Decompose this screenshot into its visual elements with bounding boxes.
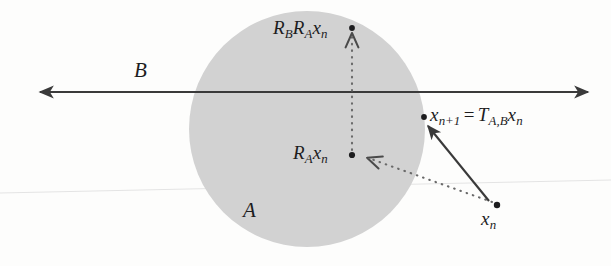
label-ra-xn-x: x xyxy=(313,142,321,163)
label-rb-ra-xn-R1-sub: B xyxy=(285,26,293,41)
label-xn-plus-1-equation: xn+1=TA,Bxn xyxy=(430,105,523,124)
point-marker-xnplus1 xyxy=(421,114,427,120)
point-marker-xn xyxy=(494,202,500,208)
label-xn-x: x xyxy=(481,208,489,229)
label-disk-a: A xyxy=(243,200,256,221)
label-xn-x-sub: n xyxy=(490,217,496,232)
label-xnp1-equals: = xyxy=(464,104,475,125)
point-marker-rbraxn xyxy=(349,25,355,31)
point-marker-raxn xyxy=(349,152,355,158)
label-ra-xn-R: R xyxy=(293,142,305,163)
label-ra-xn-R-sub: A xyxy=(305,151,313,166)
reflection-diagram-figure: B A RBRAxn RAxn xn+1=TA,Bxn xn xyxy=(0,0,611,266)
solid-arrow-xn-to-xnplus1 xyxy=(428,126,489,201)
label-ra-xn-x-sub: n xyxy=(321,151,327,166)
label-line-b-text: B xyxy=(134,58,147,82)
label-ra-xn: RAxn xyxy=(293,143,328,162)
label-xnp1-x-sub: n+1 xyxy=(439,113,461,128)
label-rb-ra-xn: RBRAxn xyxy=(273,18,327,37)
label-rb-ra-xn-R1: R xyxy=(273,17,285,38)
label-xnp1-T-sub: A,B xyxy=(489,113,508,128)
label-xn: xn xyxy=(481,209,496,228)
disk-a-shape xyxy=(189,11,425,247)
label-disk-a-text: A xyxy=(243,198,256,222)
label-rb-ra-xn-x-sub: n xyxy=(321,26,327,41)
label-line-b: B xyxy=(134,60,147,81)
label-rb-ra-xn-x: x xyxy=(312,17,320,38)
label-xnp1-T: T xyxy=(478,104,489,125)
label-rb-ra-xn-R2-sub: A xyxy=(304,26,312,41)
label-xnp1-x2-sub: n xyxy=(516,113,522,128)
label-xnp1-x: x xyxy=(430,104,438,125)
label-xnp1-x2: x xyxy=(508,104,516,125)
label-rb-ra-xn-R2: R xyxy=(293,17,305,38)
